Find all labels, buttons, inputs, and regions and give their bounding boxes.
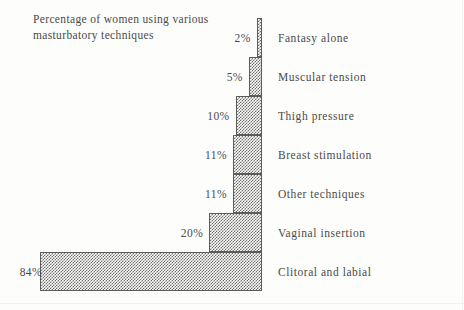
bar-category-label: Other techniques [278,188,365,200]
bar-fantasy-alone [257,18,262,57]
plot-area: 2%Fantasy alone5%Muscular tension10%Thig… [0,0,464,310]
bar-value-label: 10% [188,110,230,122]
bar-value-label: 5% [201,71,243,83]
bar-muscular-tension [249,57,262,96]
bar-value-label: 84% [0,266,42,278]
bar-value-label: 2% [209,32,251,44]
bar-value-label: 11% [185,149,227,161]
bar-category-label: Clitoral and labial [278,266,371,278]
bar-row: 10%Thigh pressure [0,96,464,135]
bar-value-label: 20% [161,227,203,239]
bar-row: 2%Fantasy alone [0,18,464,57]
bar-row: 11%Breast stimulation [0,135,464,174]
bar-vaginal-insertion [209,213,262,252]
bar-value-label: 11% [185,188,227,200]
bar-clitoral-and-labial [40,252,262,291]
bar-other-techniques [233,174,262,213]
bar-category-label: Thigh pressure [278,110,354,122]
bar-row: 5%Muscular tension [0,57,464,96]
bar-category-label: Fantasy alone [278,32,349,44]
bar-row: 20%Vaginal insertion [0,213,464,252]
chart-page: Percentage of women using various mastur… [0,0,464,310]
bar-category-label: Breast stimulation [278,149,372,161]
bar-breast-stimulation [233,135,262,174]
bar-row: 11%Other techniques [0,174,464,213]
bar-row: 84%Clitoral and labial [0,252,464,291]
bar-thigh-pressure [236,96,262,135]
bar-category-label: Vaginal insertion [278,227,366,239]
bar-category-label: Muscular tension [278,71,366,83]
